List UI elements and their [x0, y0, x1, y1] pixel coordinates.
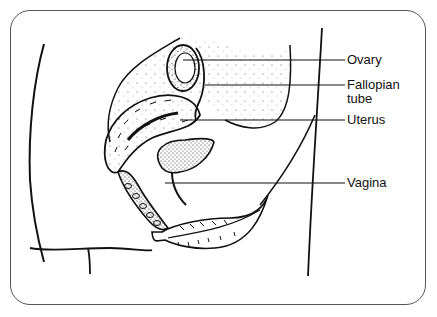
- thigh-contour: [88, 248, 90, 274]
- anatomy-illustration: [0, 0, 437, 317]
- bladder-shape: [158, 139, 214, 173]
- label-fallopian-tube: Fallopian tube: [347, 78, 400, 106]
- pubic-contour: [260, 115, 315, 205]
- abdomen-contour: [308, 28, 322, 276]
- back-contour: [30, 44, 44, 262]
- label-vagina: Vagina: [347, 176, 387, 190]
- vagina-canal: [118, 171, 168, 230]
- urethra-shape: [172, 172, 186, 205]
- label-uterus: Uterus: [347, 113, 385, 127]
- buttock-contour: [30, 248, 152, 251]
- label-ovary: Ovary: [347, 53, 382, 67]
- labia-shape: [152, 195, 268, 248]
